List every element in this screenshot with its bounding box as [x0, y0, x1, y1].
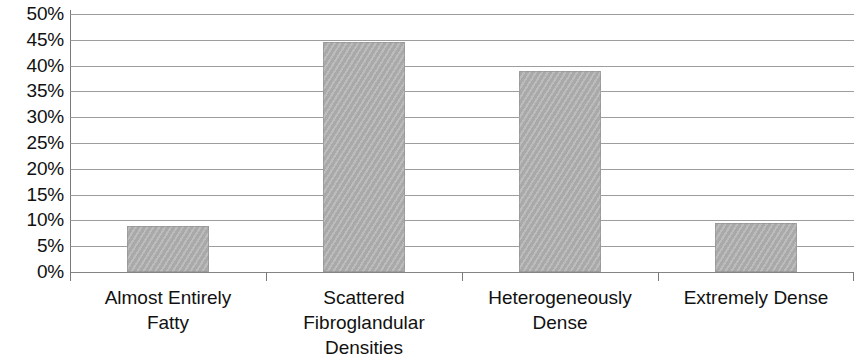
bar-slot — [658, 14, 854, 272]
x-axis-category-label: HeterogeneouslyDense — [462, 285, 658, 335]
x-axis-category-label: Almost EntirelyFatty — [70, 285, 266, 335]
bar — [715, 223, 797, 272]
x-axis-category-label-line: Dense — [462, 310, 658, 335]
bar-slot — [462, 14, 658, 272]
bar-series — [70, 14, 854, 272]
bar-slot — [266, 14, 462, 272]
x-axis-category-label-line: Densities — [266, 335, 462, 359]
x-axis-tick — [70, 272, 71, 281]
x-axis-category-label-line: Scattered — [266, 285, 462, 310]
x-axis-category-label-line: Heterogeneously — [462, 285, 658, 310]
y-axis-tick-labels: 50%45%40%35%30%25%20%15%10%5%0% — [0, 0, 64, 290]
x-axis-category-label-line: Fibroglandular — [266, 310, 462, 335]
x-axis-category-labels: Almost EntirelyFattyScatteredFibroglandu… — [70, 285, 854, 359]
x-axis-category-label-line: Extremely Dense — [658, 285, 854, 310]
x-axis-category-label-line: Almost Entirely — [70, 285, 266, 310]
y-axis-tick-label: 5% — [0, 236, 64, 255]
bar-slot — [70, 14, 266, 272]
x-axis-tick — [658, 272, 659, 281]
y-axis-tick-label: 0% — [0, 262, 64, 281]
x-axis-category-label: Extremely Dense — [658, 285, 854, 310]
x-axis-tick — [266, 272, 267, 281]
y-axis-tick-label: 45% — [0, 30, 64, 49]
y-axis-tick-label: 20% — [0, 159, 64, 178]
x-axis-tick — [462, 272, 463, 281]
bar-chart: 50%45%40%35%30%25%20%15%10%5%0% Almost E… — [0, 0, 854, 359]
bar — [127, 226, 209, 272]
y-axis-tick-label: 35% — [0, 81, 64, 100]
y-axis-tick-label: 15% — [0, 185, 64, 204]
bar — [519, 71, 601, 272]
y-axis-tick-label: 25% — [0, 133, 64, 152]
y-axis-tick-label: 30% — [0, 107, 64, 126]
y-axis-tick-label: 40% — [0, 56, 64, 75]
x-axis-tick-marks — [70, 272, 854, 282]
x-axis-category-label: ScatteredFibroglandularDensities — [266, 285, 462, 359]
x-axis-category-label-line: Fatty — [70, 310, 266, 335]
bar — [323, 42, 405, 272]
y-axis-tick-label: 50% — [0, 4, 64, 23]
y-axis-tick-label: 10% — [0, 210, 64, 229]
